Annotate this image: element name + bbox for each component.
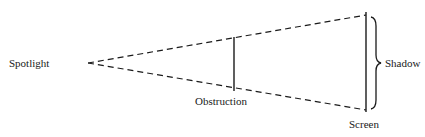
upper-light-ray bbox=[88, 15, 366, 63]
shadow-brace-icon bbox=[371, 17, 381, 109]
obstruction-label: Obstruction bbox=[195, 95, 247, 107]
screen-label: Screen bbox=[349, 118, 379, 130]
spotlight-label: Spotlight bbox=[9, 57, 49, 69]
shadow-label: Shadow bbox=[385, 57, 421, 69]
spotlight-shadow-diagram: Spotlight Obstruction Shadow Screen bbox=[0, 0, 425, 137]
